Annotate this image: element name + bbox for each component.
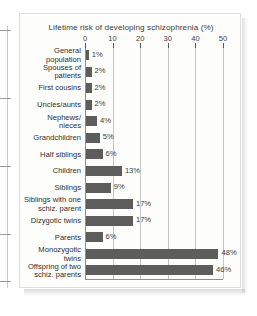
plot-area: 01020304050 General population1%Spouses … <box>85 47 223 279</box>
chart-title: Lifetime risk of developing schizophreni… <box>20 23 242 32</box>
bar-row: Siblings9% <box>85 180 223 197</box>
bar <box>86 133 100 143</box>
bar-value-label: 17% <box>136 199 151 208</box>
bar-row: Dizygotic twins17% <box>85 213 223 230</box>
category-label: Grandchildren <box>0 134 81 142</box>
bar-value-label: 9% <box>114 182 125 191</box>
x-axis-tick-label: 10 <box>108 34 116 43</box>
bar <box>86 199 133 209</box>
x-axis-tick-label: 50 <box>219 34 227 43</box>
bar-row: Half siblings6% <box>85 146 223 163</box>
x-axis-tick <box>223 43 224 48</box>
bar <box>86 249 218 259</box>
bar-row: General population1% <box>85 47 223 64</box>
bar-row: Children13% <box>85 163 223 180</box>
bar-value-label: 48% <box>221 248 236 257</box>
category-label: General population <box>0 47 81 64</box>
category-label: Offspring of two schiz. parents <box>0 262 81 279</box>
bar-row: Monozygotic twins48% <box>85 246 223 263</box>
bar <box>86 216 133 226</box>
bar <box>86 183 111 193</box>
bar <box>86 100 92 110</box>
bar-value-label: 2% <box>95 66 106 75</box>
bar-value-label: 4% <box>100 116 111 125</box>
bar <box>86 83 92 93</box>
bar <box>86 265 213 275</box>
x-axis-tick-label: 20 <box>136 34 144 43</box>
bar-value-label: 6% <box>106 232 117 241</box>
category-label: Children <box>0 167 81 175</box>
category-label: Parents <box>0 233 81 241</box>
bar-value-label: 13% <box>125 166 140 175</box>
margin-tick <box>0 281 11 282</box>
panel-shadow <box>242 18 248 293</box>
margin-tick <box>0 98 11 99</box>
x-axis-tick-label: 40 <box>191 34 199 43</box>
bar-value-label: 1% <box>92 50 103 59</box>
bar-row: Nephews/ nieces4% <box>85 113 223 130</box>
x-axis-tick-label: 0 <box>83 34 87 43</box>
category-label: Siblings with one schiz. parent <box>0 196 81 213</box>
category-label: First cousins <box>0 84 81 92</box>
chart-panel: Lifetime risk of developing schizophreni… <box>19 13 241 288</box>
category-label: Uncles/aunts <box>0 101 81 109</box>
x-axis-tick-label: 30 <box>164 34 172 43</box>
bar <box>86 149 103 159</box>
panel-shadow <box>24 289 245 296</box>
category-label: Siblings <box>0 184 81 192</box>
bar-value-label: 5% <box>103 132 114 141</box>
category-label: Half siblings <box>0 151 81 159</box>
bar-value-label: 17% <box>136 215 151 224</box>
bar <box>86 50 89 60</box>
bar-row: Parents6% <box>85 229 223 246</box>
bar <box>86 232 103 242</box>
bar-value-label: 2% <box>95 83 106 92</box>
category-label: Spouses of patients <box>0 63 81 80</box>
category-label: Dizygotic twins <box>0 217 81 225</box>
bar <box>86 67 92 77</box>
bar-row: Siblings with one schiz. parent17% <box>85 196 223 213</box>
bar-value-label: 46% <box>216 265 231 274</box>
bar-row: Offspring of two schiz. parents46% <box>85 262 223 279</box>
bar-value-label: 2% <box>95 99 106 108</box>
category-label: Nephews/ nieces <box>0 113 81 130</box>
bar <box>86 166 122 176</box>
x-axis-line <box>85 279 223 280</box>
bar <box>86 116 97 126</box>
bar-value-label: 6% <box>106 149 117 158</box>
gridline <box>223 47 224 279</box>
category-label: Monozygotic twins <box>0 246 81 263</box>
bar-row: Uncles/aunts2% <box>85 97 223 114</box>
bar-row: First cousins2% <box>85 80 223 97</box>
margin-tick <box>0 30 11 31</box>
bar-row: Grandchildren5% <box>85 130 223 147</box>
bar-row: Spouses of patients2% <box>85 64 223 81</box>
